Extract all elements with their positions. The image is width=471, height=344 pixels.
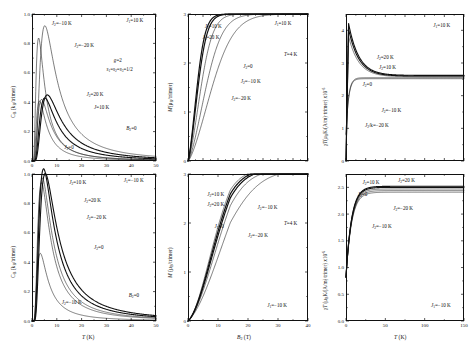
y-tick-label: 0.4 [16, 100, 30, 105]
curve-annotation: J2=−10 K [258, 205, 278, 211]
y-tick-label: 0 [330, 159, 344, 164]
x-tick-label: 100 [421, 323, 429, 328]
curve-annotation: J2=0 [64, 145, 73, 151]
x-tick-label: 150 [460, 323, 468, 328]
panel-top-left: 010203040500.00.20.40.60.81.0 J2=−10 KJ2… [0, 0, 165, 172]
y-tick-label: 0.6 [16, 230, 30, 235]
x-tick-label: 40 [127, 323, 135, 328]
curve-annotation: J2=0 [358, 192, 367, 198]
y-tick-label: 0.0 [16, 159, 30, 164]
y-tick-label: 3 [172, 12, 186, 17]
curve-annotation: J2=20 K [207, 202, 224, 208]
x-axis-label-bottom-left: T (K) [82, 334, 94, 340]
curve-annotation: J2/k=−20 K [365, 123, 389, 129]
curve-annotation: J2=0 [94, 245, 103, 251]
y-tick-label: 2 [172, 221, 186, 226]
curve-annotation: J2=20 K [202, 35, 219, 41]
y-tick-label: 0.8 [16, 41, 30, 46]
y-tick-label: 1.0 [16, 12, 30, 17]
y-axis-label-top-right: χT(μBK/(A/m)·trimer) x10-6 [322, 88, 329, 146]
curve-annotation: J2=−20 K [231, 96, 251, 102]
curve-annotation: J2=−10 K [381, 108, 401, 114]
y-tick-label: 0.5 [330, 292, 344, 297]
y-tick-label: 0.8 [16, 201, 30, 206]
curve-annotation: J2=0 [243, 64, 252, 70]
x-tick-label: 0 [342, 323, 350, 328]
y-tick-label: 0 [172, 319, 186, 324]
y-axis-label-bottom-right: χT (μBK/(A/m) trimer) x10-6 [322, 251, 329, 310]
x-tick-label: 0 [28, 323, 36, 328]
y-tick-label: 3 [330, 61, 344, 66]
x-tick-label: 10 [214, 323, 222, 328]
axis-ticks-bottom-middle [188, 174, 308, 321]
y-axis-label-top-left: CB (kB/trimer) [10, 86, 17, 118]
panel-bottom-right: 0501001500.00.51.01.52.02.5 J2=10 KJ2=20… [310, 166, 471, 344]
curve-annotation: J2=10 K [363, 180, 380, 186]
curve-annotation: B2=0 [126, 126, 136, 132]
x-tick-label: 30 [274, 323, 282, 328]
axis-ticks-top-left [32, 14, 156, 161]
y-tick-label: 1 [330, 126, 344, 131]
curve-annotation: g=2 [114, 58, 122, 63]
y-axis-label-bottom-left: CB (kB/trimer) [10, 246, 17, 278]
curve-annotation: J1=10 K [274, 21, 291, 27]
curve-annotation: J1=−10 K [267, 303, 287, 309]
curve-annotation: s1=s2=s3=1/2 [106, 67, 132, 73]
curve-annotation: J2=−10 K [62, 300, 82, 306]
curve-annotation: J2=20 K [377, 55, 394, 61]
x-tick-label: 50 [381, 323, 389, 328]
curve-annotation: T=4 K [284, 221, 297, 226]
curve-annotation: T=4 K [284, 52, 297, 57]
curve-annotation: J2=10 K [69, 180, 86, 186]
curve-annotation: J1=10 K [433, 23, 450, 29]
y-axis-label-top-middle: M(μB/trimer) [167, 83, 174, 112]
curve-annotation: J2=−10 K [52, 21, 72, 27]
panel-bottom-left: 010203040500.00.20.40.60.81.0 J2=10 KJ2=… [0, 166, 165, 344]
y-tick-label: 0.0 [330, 319, 344, 324]
y-tick-label: 0.0 [16, 319, 30, 324]
curve-annotation: J2=−20 K [87, 215, 107, 221]
curve-annotation: J2=−20 K [74, 43, 94, 49]
curve-annotation: J2=−20 K [248, 233, 268, 239]
x-tick-label: 30 [102, 323, 110, 328]
y-tick-label: 0 [172, 159, 186, 164]
curve-annotation: J1=10 K [126, 18, 143, 24]
y-tick-label: 1 [172, 110, 186, 115]
y-tick-label: 4 [330, 28, 344, 33]
curve-annotation: J2=−20 K [393, 206, 413, 212]
y-axis-label-bottom-middle: M (μB/trimer) [167, 247, 174, 278]
curve-annotation: J2=−10 K [241, 79, 261, 85]
curve-annotation: J2=−10 K [372, 224, 392, 230]
panel-bottom-middle: 0102030400123 J2=10 KJ2=20 KJ2=0J2=−10 K… [155, 166, 315, 344]
y-tick-label: 2.0 [330, 212, 344, 217]
x-tick-label: 10 [53, 323, 61, 328]
curve-annotation: J1=−10 K [124, 178, 144, 184]
y-tick-label: 2 [330, 93, 344, 98]
y-tick-label: 1.0 [330, 265, 344, 270]
x-axis-label-bottom-right: T (K) [394, 334, 406, 340]
curve-annotation: J2=20 K [84, 198, 101, 204]
curve-annotation: J2=0 [214, 224, 223, 230]
curve-annotation: J2=10 K [205, 24, 222, 30]
x-axis-label-bottom-middle: B2 (T) [237, 334, 251, 341]
y-tick-label: 0.2 [16, 129, 30, 134]
x-tick-label: 20 [78, 323, 86, 328]
y-tick-label: 2 [172, 61, 186, 66]
curve-annotation: J2=0 [363, 82, 372, 88]
y-tick-label: 1.0 [16, 172, 30, 177]
y-tick-label: 0.4 [16, 260, 30, 265]
curve-annotation: J1=−10 K [431, 303, 451, 309]
y-tick-label: 0.2 [16, 289, 30, 294]
curve-annotation: J2=20 K [398, 178, 415, 184]
curve-annotation: J2=20 K [87, 92, 104, 98]
y-tick-label: 1 [172, 270, 186, 275]
y-tick-label: 0.6 [16, 70, 30, 75]
x-tick-label: 20 [244, 323, 252, 328]
curve-annotation: J2=10 K [207, 192, 224, 198]
panel-top-middle: 0123 J2=10 KJ2=20 KJ2=0J2=−10 KJ2=−20 KJ… [155, 0, 315, 172]
curve-annotation: B2=0 [129, 293, 139, 299]
panel-top-right: 01234 J2=20 KJ2=10 KJ2=0J2=−10 KJ2/k=−20… [310, 0, 471, 172]
y-tick-label: 1.5 [330, 238, 344, 243]
y-tick-label: 3 [172, 172, 186, 177]
curve-annotation: J2=10 K [379, 65, 396, 71]
